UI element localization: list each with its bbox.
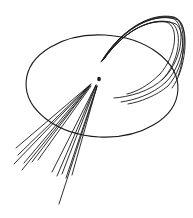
detector-boundary-ellipse — [23, 31, 180, 141]
interaction-vertex — [97, 77, 101, 82]
curved-track — [102, 16, 183, 102]
straight-track — [24, 85, 90, 163]
jet-left-tracks — [14, 84, 91, 170]
event-display-diagram — [0, 0, 193, 218]
straight-track — [18, 84, 91, 155]
curved-tracks — [101, 16, 185, 104]
event-display-svg — [0, 0, 193, 218]
curved-track — [101, 17, 181, 98]
vertex-dot — [97, 77, 101, 82]
curved-track — [103, 21, 178, 80]
detector-ellipse — [23, 31, 180, 141]
